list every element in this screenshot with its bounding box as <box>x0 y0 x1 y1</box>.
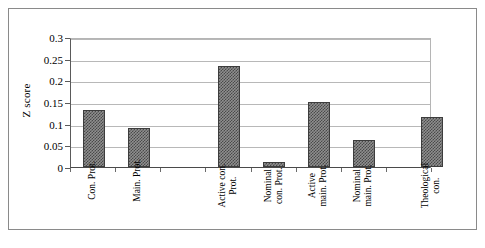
x-axis-category-label-text: Con. Prot. <box>87 161 98 200</box>
gridline <box>71 126 430 127</box>
x-axis-category-label-text: Active con. Prot. <box>217 164 238 208</box>
y-axis-tick-mark <box>65 60 70 61</box>
y-axis-tick-label: 0.15 <box>44 98 63 109</box>
gridline <box>71 104 430 105</box>
x-axis-category-label-text: Active main. Prot. <box>308 165 329 207</box>
bar <box>218 66 240 167</box>
bar <box>353 140 375 167</box>
x-axis-category-label: Main. Prot. <box>111 175 165 227</box>
gridline <box>71 39 430 40</box>
y-axis-tick-mark <box>65 38 70 39</box>
bar <box>421 117 443 167</box>
x-axis-tick-mark <box>431 168 432 172</box>
y-axis-tick-mark <box>65 81 70 82</box>
x-axis-category-label: Theological con. <box>404 175 458 227</box>
x-axis-tick-mark <box>296 168 297 172</box>
x-axis-tick-mark <box>160 168 161 172</box>
y-axis-title-text: Z score <box>21 83 32 117</box>
x-axis-tick-mark <box>341 168 342 172</box>
bar <box>83 110 105 167</box>
plot-area <box>70 38 431 168</box>
x-axis-tick-mark <box>70 168 71 172</box>
gridline <box>71 61 430 62</box>
x-axis-category-label-text: Nominal main. Prot. <box>353 165 374 207</box>
y-axis-tick-label: 0.2 <box>49 76 63 87</box>
y-axis-title: Z score <box>18 60 34 140</box>
x-axis-tick-mark <box>115 168 116 172</box>
x-axis-category-label-text: Main. Prot. <box>132 159 143 202</box>
x-axis-tick-mark <box>386 168 387 172</box>
y-axis-tick-label: 0.05 <box>44 141 63 152</box>
y-axis-tick-label: 0 <box>58 163 64 174</box>
y-axis-tick-mark <box>65 146 70 147</box>
y-axis-tick-labels: 00.050.10.150.20.250.3 <box>36 31 66 175</box>
chart-figure: Z score 00.050.10.150.20.250.3 Con. Prot… <box>0 0 485 248</box>
y-axis-tick-mark <box>65 125 70 126</box>
gridline <box>71 147 430 148</box>
bar <box>308 102 330 167</box>
x-axis-tick-mark <box>251 168 252 172</box>
y-axis-tick-label: 0.3 <box>49 33 63 44</box>
x-axis-category-label-text: Nominal con. Prot. <box>262 167 283 204</box>
gridline <box>71 82 430 83</box>
x-axis-tick-mark <box>205 168 206 172</box>
y-axis-tick-label: 0.25 <box>44 54 63 65</box>
x-axis-category-label: Nominal main. Prot. <box>336 175 390 227</box>
y-axis-tick-label: 0.1 <box>49 119 63 130</box>
bar <box>263 162 285 167</box>
y-axis-tick-mark <box>65 103 70 104</box>
